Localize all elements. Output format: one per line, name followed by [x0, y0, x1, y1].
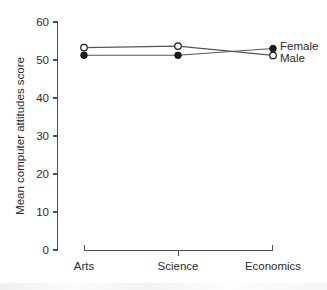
- x-tick-label-science: Science: [158, 260, 199, 272]
- data-point-female-arts: [81, 52, 88, 59]
- data-point-male-arts: [81, 44, 88, 51]
- x-tick-label-arts: Arts: [74, 260, 95, 272]
- y-tick-label-30: 30: [36, 130, 49, 142]
- x-axis: Arts Science Economics: [74, 245, 302, 272]
- y-axis: 60 50 40 30 20 10 0 Mean computer attitu…: [14, 16, 58, 256]
- y-tick-label-20: 20: [36, 168, 49, 180]
- data-point-male-science: [175, 43, 182, 50]
- line-chart: 60 50 40 30 20 10 0 Mean computer attitu…: [0, 0, 327, 290]
- legend: Female Male: [280, 40, 318, 64]
- chart-figure: 60 50 40 30 20 10 0 Mean computer attitu…: [0, 0, 327, 290]
- legend-label-female: Female: [280, 40, 318, 52]
- y-axis-title: Mean computer attitudes score: [14, 57, 26, 215]
- data-point-female-science: [175, 52, 182, 59]
- y-tick-label-10: 10: [36, 206, 49, 218]
- data-point-female-economics: [270, 45, 277, 52]
- y-tick-label-40: 40: [36, 92, 49, 104]
- y-tick-label-0: 0: [43, 244, 49, 256]
- y-tick-label-50: 50: [36, 54, 49, 66]
- y-tick-label-60: 60: [36, 16, 49, 28]
- y-axis-ticks: 60 50 40 30 20 10 0: [36, 16, 57, 256]
- legend-label-male: Male: [280, 52, 305, 64]
- bottom-edge-artifact: [0, 283, 327, 290]
- x-tick-label-economics: Economics: [245, 260, 301, 272]
- data-point-male-economics: [270, 52, 277, 59]
